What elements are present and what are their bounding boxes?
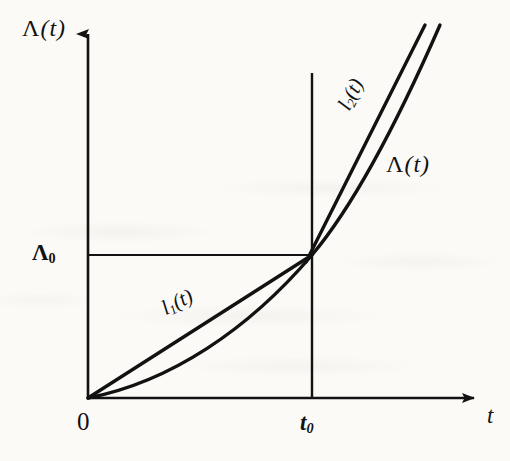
curve-label-lambda-arg: (t) [404,151,430,177]
l1-chord [88,255,312,398]
curve-label-lambda-base: Λ [386,151,404,177]
lambda-curve [88,25,440,398]
y-axis-label-base: Λ [22,15,40,41]
figure-canvas: Λ(t) t Λ0 0 t0 l1(t) l2(t) Λ(t) [0,0,510,461]
y-tick-label-lambda0: Λ0 [32,241,56,265]
plot-area [0,0,510,461]
y-axis-label-arg: (t) [40,15,66,41]
x-axis-label: t [487,404,493,427]
x-tick-t0-subscript: 0 [306,420,313,436]
x-tick-label-t0: t0 [300,411,314,435]
y-tick-lambda0-subscript: 0 [49,250,56,266]
y-tick-lambda0-base: Λ [32,240,49,265]
l2-tangent [306,25,425,262]
origin-label: 0 [77,409,90,434]
y-axis-label: Λ(t) [22,16,66,40]
curve-label-lambda: Λ(t) [386,152,430,176]
